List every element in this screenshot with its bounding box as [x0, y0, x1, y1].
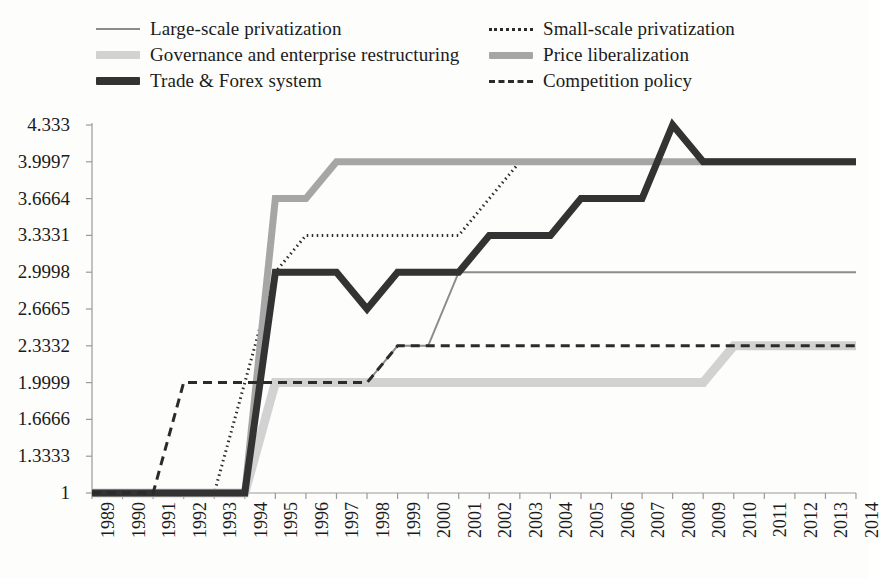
x-axis-tick-label: 1994: [252, 502, 270, 538]
axis-layer: [86, 123, 856, 499]
line-solid-thick-lightgray-icon: [96, 48, 140, 62]
legend-item-trade-and-forex-system[interactable]: Trade & Forex system: [96, 68, 322, 94]
x-axis-tick-label: 2002: [496, 502, 514, 538]
legend-label: Governance and enterprise restructuring: [150, 44, 459, 66]
x-axis-tick-label: 1989: [99, 502, 117, 538]
x-axis-tick-label: 2011: [771, 502, 789, 537]
x-axis-tick-label: 2004: [557, 502, 575, 538]
x-axis-tick-label: 1992: [191, 502, 209, 538]
x-axis-tick-label: 2012: [802, 502, 820, 538]
line-solid-thin-gray-icon: [96, 22, 140, 36]
x-axis-tick-label: 1995: [282, 502, 300, 538]
x-axis-tick-label: 2005: [588, 502, 606, 538]
series-line-price-liberalization: [92, 162, 856, 493]
legend-item-governance-and-enterprise-restructuring[interactable]: Governance and enterprise restructuring: [96, 42, 459, 68]
x-axis-tick-label: 1991: [160, 502, 178, 538]
series-line-competition-policy: [92, 346, 856, 493]
line-solid-thick-gray-icon: [489, 48, 533, 62]
x-axis-tick-label: 1998: [374, 502, 392, 538]
legend-label: Price liberalization: [543, 44, 689, 66]
series-line-governance-and-enterprise-restructuring: [92, 346, 856, 493]
x-axis-tick-label: 1999: [405, 502, 423, 538]
x-axis-tick-label: 2006: [619, 502, 637, 538]
x-axis-tick-label: 2001: [466, 502, 484, 538]
x-axis-tick-label: 1996: [313, 502, 331, 538]
legend-item-small-scale-privatization[interactable]: Small-scale privatization: [489, 16, 735, 42]
legend-item-large-scale-privatization[interactable]: Large-scale privatization: [96, 16, 342, 42]
line-solid-thick-dark-icon: [96, 74, 140, 88]
series-layer: [92, 125, 856, 493]
x-axis-tick-label: 2000: [435, 502, 453, 538]
plot-area: [0, 108, 869, 508]
line-dotted-dark-icon: [489, 22, 533, 36]
chart-legend: Large-scale privatization Governance and…: [0, 8, 869, 108]
x-axis-tick-label: 1997: [343, 502, 361, 538]
x-axis-tick-label: 1993: [221, 502, 239, 538]
x-axis-tick-label: 2007: [649, 502, 667, 538]
x-axis-tick-label: 2008: [680, 502, 698, 538]
legend-item-competition-policy[interactable]: Competition policy: [489, 68, 692, 94]
x-axis-tick-label: 2013: [832, 502, 850, 538]
legend-label: Trade & Forex system: [150, 70, 322, 92]
line-dashed-dark-icon: [489, 74, 533, 88]
x-axis-tick-labels: 1989199019911992199319941995199619971998…: [0, 498, 869, 579]
x-axis-tick-label: 1990: [130, 502, 148, 538]
x-axis-tick-label: 2003: [527, 502, 545, 538]
x-axis-tick-label: 2009: [710, 502, 728, 538]
series-line-small-scale-privatization: [92, 162, 856, 493]
x-axis-tick-label: 2010: [741, 502, 759, 538]
legend-item-price-liberalization[interactable]: Price liberalization: [489, 42, 689, 68]
plot-svg: [0, 108, 869, 508]
legend-label: Small-scale privatization: [543, 18, 735, 40]
x-axis-tick-label: 2014: [863, 502, 881, 538]
legend-label: Large-scale privatization: [150, 18, 342, 40]
series-line-trade-forex-system: [92, 125, 856, 493]
legend-label: Competition policy: [543, 70, 692, 92]
